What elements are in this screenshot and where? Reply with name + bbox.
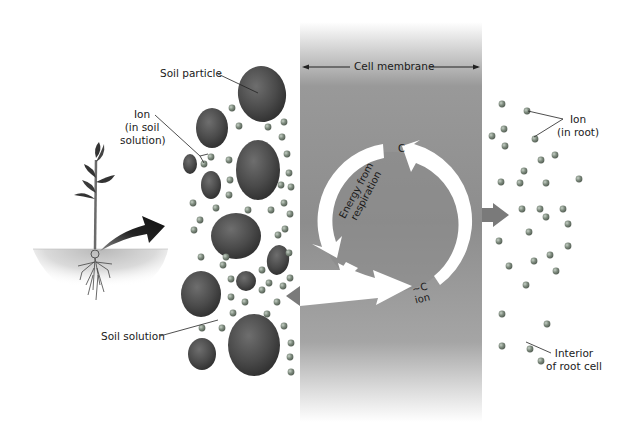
ion-particle <box>288 340 295 347</box>
ion-particle <box>565 243 572 250</box>
ion-particle <box>226 157 233 164</box>
soil-particle <box>228 314 280 376</box>
ion-particle <box>281 119 288 126</box>
soil-particle <box>183 154 197 174</box>
carrier-label: C <box>398 142 405 155</box>
ion-particle <box>553 268 560 275</box>
ion-particle <box>496 238 503 245</box>
cell-membrane-label: Cell membrane <box>354 60 434 73</box>
ion-particle <box>517 180 524 187</box>
ion-particle <box>264 311 271 318</box>
ion-particle <box>576 176 583 183</box>
ion-particle <box>560 206 567 213</box>
ion-particle <box>228 294 235 301</box>
ion-particle <box>527 346 534 353</box>
ion-root-label: Ion (in root) <box>555 113 601 139</box>
ion-particle <box>288 369 295 376</box>
ion-particle <box>219 325 226 332</box>
ion-particle <box>199 325 206 332</box>
soil-particle <box>181 271 221 317</box>
ion-uptake-diagram: Soil particle Ion (in soil solution) Soi… <box>0 0 632 432</box>
ion-soil-label-line3: solution) <box>120 134 164 147</box>
ion-particle <box>226 192 233 199</box>
ion-particle <box>287 211 294 218</box>
ion-particle <box>201 161 208 168</box>
ion-particle <box>286 170 293 177</box>
soil-particle <box>196 108 228 148</box>
ion-soil-label-line1: Ion <box>120 108 164 121</box>
ion-particle <box>259 287 266 294</box>
interior-root-cell-label: Interior of root cell <box>544 347 604 373</box>
soil-particle <box>234 63 289 125</box>
ion-particle <box>220 262 227 269</box>
ion-particle <box>230 310 237 317</box>
soil-particle <box>188 338 216 370</box>
ion-particle <box>284 151 291 158</box>
ion-particle <box>245 207 252 214</box>
ion-particle <box>281 200 288 207</box>
ion-particle <box>287 275 294 282</box>
ion-soil-label-line2: (in soil <box>120 121 164 134</box>
ion-particle <box>499 101 506 108</box>
ion-particle <box>280 283 287 290</box>
ion-particle <box>521 168 528 175</box>
ion-particle <box>229 105 236 112</box>
ion-particle <box>265 124 272 131</box>
soil-particle-label: Soil particle <box>160 67 222 80</box>
ion-particle <box>526 229 533 236</box>
left-exit-arrow <box>286 286 300 306</box>
diagram-canvas <box>0 0 632 432</box>
ion-particle <box>499 343 506 350</box>
soil-particle <box>236 271 256 291</box>
ion-particle <box>228 276 235 283</box>
interior-label-line1: Interior <box>544 347 604 360</box>
ion-particle <box>213 205 220 212</box>
ground-soil <box>33 249 168 300</box>
ion-particle <box>565 221 572 228</box>
ion-particle <box>537 206 544 213</box>
ion-particle <box>274 299 281 306</box>
ion-particle <box>538 157 545 164</box>
ion-particle <box>223 254 230 261</box>
ion-particle <box>259 267 266 274</box>
soil-particle <box>236 140 280 200</box>
right-entry-arrow <box>482 203 509 227</box>
interior-label-line2: of root cell <box>544 360 604 373</box>
ion-particle <box>552 152 559 159</box>
ion-particle <box>547 252 554 259</box>
ion-root-label-line1: Ion <box>555 113 601 126</box>
ion-particle <box>281 323 288 330</box>
ion-particle <box>227 177 234 184</box>
ion-particle <box>543 214 550 221</box>
ion-particle <box>275 232 282 239</box>
soil-particle <box>201 171 221 199</box>
soil-particle <box>265 243 292 276</box>
ion-particle <box>279 134 286 141</box>
ion-particle <box>519 206 526 213</box>
ion-particle <box>531 258 538 265</box>
ion-soil-label: Ion (in soil solution) <box>120 108 164 147</box>
ion-particle <box>282 226 289 233</box>
ion-particle <box>523 282 530 289</box>
root-ions <box>489 101 583 365</box>
ion-particle <box>197 217 204 224</box>
ion-particle <box>198 254 205 261</box>
ion-particle <box>544 321 551 328</box>
ion-particle <box>190 200 197 207</box>
soil-particle <box>211 213 261 259</box>
ion-particle <box>543 180 550 187</box>
soil-solution-label: Soil solution <box>101 330 165 343</box>
ion-particle <box>266 280 273 287</box>
ion-particle <box>502 143 509 150</box>
ion-particle <box>498 179 505 186</box>
ion-particle <box>499 311 506 318</box>
ion-particle <box>286 250 293 257</box>
ion-particle <box>287 354 294 361</box>
ion-root-label-line2: (in root) <box>555 126 601 139</box>
ion-particle <box>242 299 249 306</box>
ion-particle <box>288 184 295 191</box>
ion-particle <box>208 154 215 161</box>
ion-particle <box>268 207 275 214</box>
zoom-in-arrow <box>100 216 165 251</box>
ion-particle <box>489 133 496 140</box>
